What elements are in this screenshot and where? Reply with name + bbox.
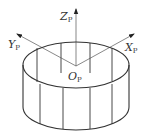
z-axis-label: ZP xyxy=(59,10,73,24)
axes xyxy=(17,9,134,66)
bottom-rim-front xyxy=(23,107,129,130)
front-vertical-lines xyxy=(40,84,112,129)
y-axis xyxy=(17,34,76,66)
y-axis-label: YP xyxy=(8,38,20,52)
coordinate-frame-diagram: ZP YP XP OP xyxy=(0,0,147,137)
origin-label: OP xyxy=(68,70,82,84)
x-axis-label: XP xyxy=(124,41,138,55)
